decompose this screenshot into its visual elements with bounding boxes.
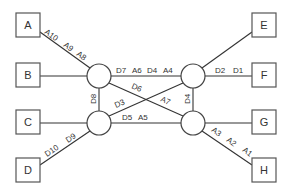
label-a8: A8 <box>75 49 89 62</box>
box-a-label: A <box>24 19 32 31</box>
label-a9: A9 <box>62 40 76 53</box>
box-f: F <box>252 63 276 87</box>
node-bottom-left <box>87 111 111 135</box>
box-f-label: F <box>261 69 268 81</box>
box-e: E <box>252 13 276 37</box>
network-diagram: A B C D E F G H A10 A9 A8 D7 A6 D4 A4 D2… <box>0 0 291 192</box>
label-d9: D9 <box>64 131 78 144</box>
box-c: C <box>16 110 40 134</box>
label-d2: D2 <box>215 66 226 75</box>
box-c-label: C <box>24 116 32 128</box>
box-h: H <box>252 158 276 182</box>
box-g-label: G <box>260 116 269 128</box>
label-d4-vertical: D4 <box>183 93 192 104</box>
box-d-label: D <box>24 164 32 176</box>
box-g: G <box>252 110 276 134</box>
label-d4-top: D4 <box>147 66 158 75</box>
box-a: A <box>16 13 40 37</box>
node-top-left <box>87 64 111 88</box>
label-a5: A5 <box>138 113 148 122</box>
label-a2: A2 <box>225 135 239 148</box>
node-top-right <box>181 64 205 88</box>
label-d6: D6 <box>130 82 144 95</box>
box-b: B <box>16 63 40 87</box>
label-a4: A4 <box>163 66 173 75</box>
box-h-label: H <box>260 164 268 176</box>
label-a7: A7 <box>159 95 172 107</box>
box-d: D <box>16 158 40 182</box>
label-a3: A3 <box>210 125 224 138</box>
label-d8: D8 <box>89 93 98 104</box>
label-d5: D5 <box>122 113 133 122</box>
node-bottom-right <box>181 111 205 135</box>
label-d3: D3 <box>113 97 127 110</box>
label-a1: A1 <box>241 145 255 158</box>
box-e-label: E <box>260 19 267 31</box>
label-d7: D7 <box>116 66 127 75</box>
label-d1: D1 <box>233 66 244 75</box>
label-a6: A6 <box>132 66 142 75</box>
edge-e-n2 <box>202 32 252 68</box>
box-b-label: B <box>24 69 31 81</box>
